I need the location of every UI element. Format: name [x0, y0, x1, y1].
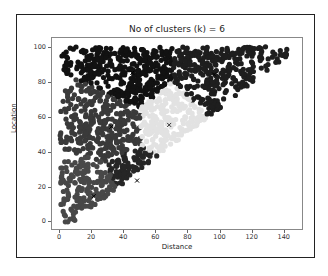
data-point: [151, 114, 156, 119]
data-point: [136, 56, 141, 61]
data-point: [191, 77, 196, 82]
data-point: [80, 68, 85, 73]
data-point: [142, 58, 147, 63]
data-point: [148, 56, 153, 61]
data-point: [117, 65, 122, 70]
data-point: [120, 181, 125, 186]
data-point: [189, 53, 194, 58]
data-point: [205, 55, 210, 60]
data-point: [63, 117, 68, 122]
data-point: [185, 72, 190, 77]
data-point: [108, 46, 113, 51]
data-point: [264, 68, 269, 73]
data-point: [77, 64, 82, 69]
data-point: [103, 120, 108, 125]
data-point: [72, 92, 77, 97]
data-point: [164, 49, 169, 54]
data-point: [225, 48, 230, 53]
data-point: [116, 88, 121, 93]
data-point: [116, 56, 121, 61]
data-point: [66, 147, 71, 152]
scatter-points: [52, 38, 303, 230]
data-point: [284, 52, 289, 57]
data-point: [144, 110, 149, 115]
data-point: [70, 208, 75, 213]
data-point: [86, 185, 91, 190]
data-point: [77, 163, 82, 168]
data-point: [116, 160, 121, 165]
data-point: [92, 202, 97, 207]
data-point: [172, 61, 177, 66]
data-point: [98, 98, 103, 103]
data-point: [73, 180, 78, 185]
data-point: [90, 47, 95, 52]
data-point: [116, 93, 121, 98]
data-point: [100, 141, 105, 146]
data-point: [172, 72, 177, 77]
data-point: [103, 108, 108, 113]
data-point: [138, 93, 143, 98]
data-point: [109, 130, 114, 135]
data-point: [123, 49, 128, 54]
data-point: [106, 153, 111, 158]
data-point: [73, 44, 78, 49]
x-tick-mark: [59, 230, 60, 233]
data-point: [210, 79, 215, 84]
data-point: [177, 91, 182, 96]
data-point: [180, 105, 185, 110]
data-point: [111, 188, 116, 193]
data-point: [155, 89, 160, 94]
data-point: [173, 117, 178, 122]
data-point: [80, 186, 85, 191]
data-point: [74, 116, 79, 121]
data-point: [109, 166, 114, 171]
data-point: [111, 148, 116, 153]
data-point: [60, 170, 65, 175]
data-point: [98, 47, 103, 52]
data-point: [197, 55, 202, 60]
data-point: [109, 62, 114, 67]
data-point: [147, 154, 152, 159]
data-point: [78, 140, 83, 145]
data-point: [188, 84, 193, 89]
data-point: [250, 61, 255, 66]
data-point: [113, 173, 118, 178]
y-tick-label: 20: [24, 183, 46, 191]
x-tick-mark: [123, 230, 124, 233]
data-point: [173, 80, 178, 85]
y-tick-label: 100: [24, 43, 46, 51]
data-point: [140, 154, 145, 159]
data-point: [118, 47, 123, 52]
data-point: [140, 71, 145, 76]
data-point: [82, 138, 87, 143]
data-point: [184, 48, 189, 53]
data-point: [144, 92, 149, 97]
data-point: [71, 204, 76, 209]
data-point: [64, 63, 69, 68]
data-point: [190, 124, 195, 129]
data-point: [65, 197, 70, 202]
data-point: [140, 122, 145, 127]
data-point: [144, 138, 149, 143]
data-point: [81, 195, 86, 200]
data-point: [240, 80, 245, 85]
data-point: [63, 140, 68, 145]
data-point: [130, 88, 135, 93]
data-point: [61, 209, 66, 214]
data-point: [258, 51, 263, 56]
data-point: [60, 177, 65, 182]
data-point: [157, 96, 162, 101]
data-point: [73, 77, 78, 82]
data-point: [95, 129, 100, 134]
data-point: [186, 110, 191, 115]
data-point: [258, 58, 263, 63]
data-point: [72, 160, 77, 165]
x-tick-mark: [91, 230, 92, 233]
data-point: [126, 117, 131, 122]
y-tick-label: 60: [24, 113, 46, 121]
y-tick-mark: [48, 221, 51, 222]
data-point: [223, 90, 228, 95]
data-point: [185, 128, 190, 133]
data-point: [134, 64, 139, 69]
data-point: [205, 111, 210, 116]
